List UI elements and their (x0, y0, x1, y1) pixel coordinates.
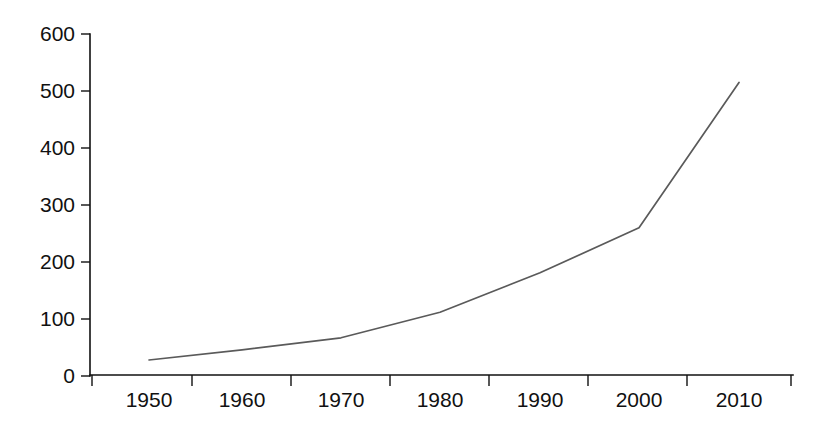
line-chart: 600 500 400 300 200 100 0 19 (0, 0, 824, 435)
y-tick-label-0: 0 (63, 364, 75, 387)
y-tick-label-200: 200 (40, 250, 75, 273)
x-tick-label-1990: 1990 (517, 388, 564, 411)
y-tick-label-600: 600 (40, 22, 75, 45)
x-tick-label-1980: 1980 (417, 388, 464, 411)
x-tick-label-1950: 1950 (126, 388, 173, 411)
x-tick-label-2000: 2000 (616, 388, 663, 411)
x-tick-label-1960: 1960 (219, 388, 266, 411)
y-tick-label-400: 400 (40, 136, 75, 159)
chart-canvas: 600 500 400 300 200 100 0 19 (0, 0, 824, 435)
y-tick-label-500: 500 (40, 79, 75, 102)
x-tick-label-2010: 2010 (716, 388, 763, 411)
y-axis-ticks (81, 34, 90, 376)
x-tick-label-1970: 1970 (318, 388, 365, 411)
y-axis-tick-labels: 600 500 400 300 200 100 0 (40, 22, 75, 387)
x-axis-tick-labels: 1950 1960 1970 1980 1990 2000 2010 (126, 388, 763, 411)
y-tick-label-300: 300 (40, 193, 75, 216)
data-series-line (149, 83, 739, 361)
chart-page: 600 500 400 300 200 100 0 19 (0, 0, 824, 435)
x-axis-ticks (92, 375, 791, 386)
y-tick-label-100: 100 (40, 307, 75, 330)
